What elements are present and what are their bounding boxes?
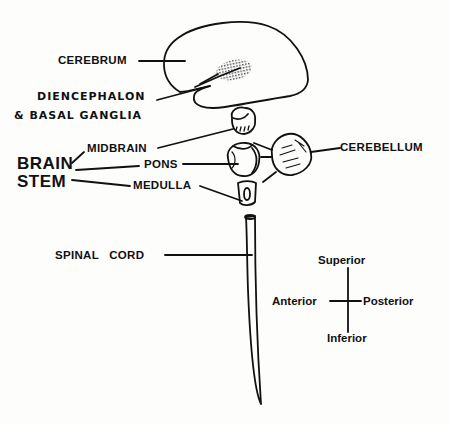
midbrain-label: MIDBRAIN <box>87 143 147 155</box>
cerebrum-label: CEREBRUM <box>58 55 127 67</box>
diencephalon-label-line1: DIENCEPHALON <box>37 91 146 102</box>
brainstem-to-medulla <box>72 180 130 186</box>
brainstem-label-line2: STEM <box>17 173 66 190</box>
medulla-leader <box>200 186 242 201</box>
medulla-label: MEDULLA <box>133 180 191 192</box>
compass-inferior: Inferior <box>327 333 367 345</box>
compass-anterior: Anterior <box>272 296 317 308</box>
diencephalon-leader <box>157 86 210 100</box>
brainstem-to-midbrain <box>72 152 84 163</box>
cerebellum-label: CEREBELLUM <box>340 142 423 154</box>
midbrain-shape <box>232 107 255 134</box>
spinal-cord-label: SPINAL CORD <box>55 250 144 262</box>
medulla-shape <box>238 181 256 205</box>
diencephalon-label-line2: & BASAL GANGLIA <box>14 110 142 121</box>
pons-shape <box>228 143 260 176</box>
cerebellum-leader <box>311 148 340 152</box>
compass-posterior: Posterior <box>363 296 414 308</box>
compass-superior: Superior <box>318 255 365 267</box>
midbrain-leader <box>158 129 233 148</box>
cns-diagram: CEREBRUM DIENCEPHALON & BASAL GANGLIA MI… <box>0 0 450 424</box>
cerebellum-shape <box>272 134 312 175</box>
brainstem-to-pons <box>76 166 139 170</box>
spinal-cord-shape <box>246 216 261 404</box>
pons-label: PONS <box>144 159 178 171</box>
brainstem-label-line1: BRAIN <box>17 155 73 172</box>
